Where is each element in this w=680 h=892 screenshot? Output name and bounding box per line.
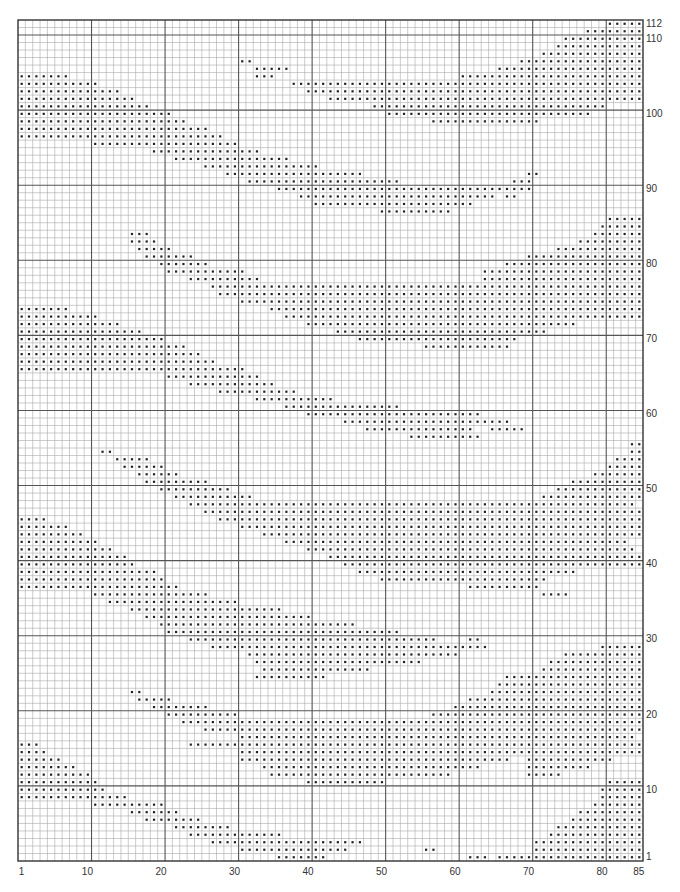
x-axis-label: 20 bbox=[155, 867, 166, 877]
x-axis-label: 1 bbox=[19, 867, 25, 877]
x-axis-label: 30 bbox=[229, 867, 240, 877]
x-axis-label: 60 bbox=[450, 867, 461, 877]
y-axis-label: 20 bbox=[646, 710, 657, 720]
y-axis-label: 110 bbox=[646, 34, 662, 44]
y-axis-label: 90 bbox=[646, 184, 657, 194]
y-axis-label: 50 bbox=[646, 484, 657, 494]
x-axis-label: 85 bbox=[633, 867, 644, 877]
x-axis-label: 10 bbox=[82, 867, 93, 877]
y-axis-label: 30 bbox=[646, 634, 657, 644]
y-axis-label: 112 bbox=[646, 19, 662, 29]
y-axis-label: 60 bbox=[646, 409, 657, 419]
x-axis-label: 80 bbox=[597, 867, 608, 877]
y-axis-label: 1 bbox=[646, 852, 652, 862]
y-axis-label: 10 bbox=[646, 785, 657, 795]
x-axis-label: 50 bbox=[376, 867, 387, 877]
y-axis-label: 100 bbox=[646, 109, 663, 119]
y-axis-label: 80 bbox=[646, 259, 657, 269]
chart-grid bbox=[0, 0, 680, 892]
x-axis-label: 70 bbox=[523, 867, 534, 877]
y-axis-label: 40 bbox=[646, 559, 657, 569]
x-axis-label: 40 bbox=[302, 867, 313, 877]
y-axis-label: 70 bbox=[646, 334, 657, 344]
